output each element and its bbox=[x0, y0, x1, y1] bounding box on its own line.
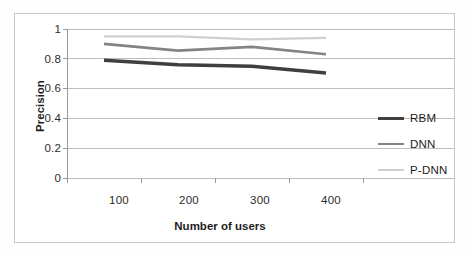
x-tick-label-400: 400 bbox=[310, 194, 352, 206]
x-tick-label-200: 200 bbox=[168, 194, 210, 206]
chart-legend: RBM DNN P-DNN bbox=[378, 105, 464, 183]
chart-frame: 1 0.8 0.6 0.4 0.2 0 100 200 300 400 Prec… bbox=[14, 13, 455, 243]
legend-label-dnn: DNN bbox=[410, 138, 436, 150]
legend-label-rbm: RBM bbox=[410, 112, 436, 124]
legend-label-p-dnn: P-DNN bbox=[410, 164, 447, 176]
legend-swatch-dnn bbox=[378, 143, 404, 145]
chart-figure: 1 0.8 0.6 0.4 0.2 0 100 200 300 400 Prec… bbox=[0, 0, 468, 258]
x-axis-title: Number of users bbox=[100, 220, 340, 232]
x-tick-label-300: 300 bbox=[239, 194, 281, 206]
y-tick-label-0: 0 bbox=[29, 172, 61, 184]
legend-item-rbm: RBM bbox=[378, 105, 464, 131]
legend-item-dnn: DNN bbox=[378, 131, 464, 157]
y-tick-label-1: 1 bbox=[29, 23, 61, 35]
legend-swatch-rbm bbox=[378, 117, 404, 120]
y-axis-title: Precision bbox=[34, 64, 46, 148]
legend-item-p-dnn: P-DNN bbox=[378, 157, 464, 183]
legend-swatch-p-dnn bbox=[378, 169, 404, 171]
x-tick-label-100: 100 bbox=[98, 194, 140, 206]
